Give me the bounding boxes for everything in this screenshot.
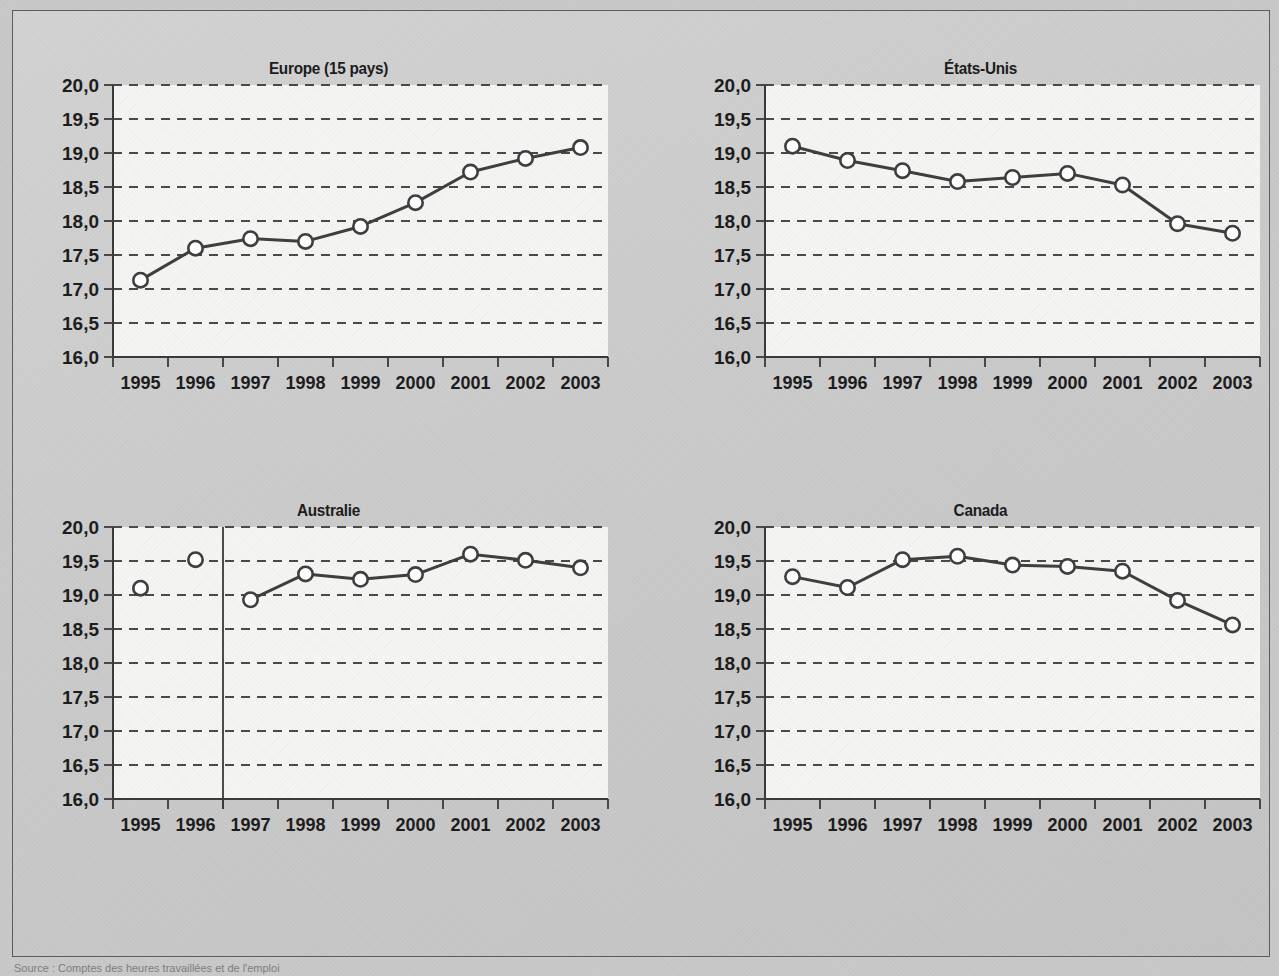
x-tick-label: 1996	[827, 815, 867, 835]
y-tick-label: 17,5	[62, 687, 99, 708]
data-point-marker	[1005, 170, 1019, 184]
y-tick-label: 17,0	[714, 279, 751, 300]
data-point-marker	[298, 234, 312, 248]
x-tick-label: 2000	[395, 815, 435, 835]
chart-plot: 20,019,519,018,518,017,517,016,516,01995…	[41, 501, 616, 861]
y-tick-label: 18,5	[62, 177, 99, 198]
data-point-marker	[518, 553, 532, 567]
y-tick-label: 18,0	[714, 653, 751, 674]
data-point-marker	[1005, 558, 1019, 572]
x-tick-label: 1999	[992, 373, 1032, 393]
x-tick-label: 1997	[882, 373, 922, 393]
x-tick-label: 1996	[827, 373, 867, 393]
y-tick-label: 19,5	[62, 551, 99, 572]
x-tick-label: 2002	[505, 373, 545, 393]
data-point-marker	[1060, 166, 1074, 180]
y-tick-label: 16,0	[62, 347, 99, 368]
figure-page: { "figure": { "source_note": "Source : C…	[0, 0, 1279, 976]
x-tick-label: 1997	[230, 373, 270, 393]
data-point-marker	[133, 581, 147, 595]
data-point-marker	[408, 567, 422, 581]
x-tick-label: 1995	[772, 815, 812, 835]
x-tick-label: 2001	[450, 373, 490, 393]
x-tick-label: 1998	[285, 815, 325, 835]
x-tick-label: 1997	[230, 815, 270, 835]
x-tick-label: 2003	[560, 373, 600, 393]
figure-frame: Europe (15 pays) 20,019,519,018,518,017,…	[12, 10, 1270, 957]
data-point-marker	[463, 547, 477, 561]
y-tick-label: 19,0	[714, 143, 751, 164]
y-tick-label: 18,5	[714, 619, 751, 640]
x-tick-label: 1996	[175, 373, 215, 393]
data-point-marker	[1170, 217, 1184, 231]
x-tick-label: 1998	[285, 373, 325, 393]
x-tick-label: 2000	[1047, 373, 1087, 393]
x-tick-label: 1999	[340, 815, 380, 835]
x-tick-label: 2003	[1212, 815, 1252, 835]
chart-panel-europe: Europe (15 pays) 20,019,519,018,518,017,…	[41, 59, 616, 419]
data-point-marker	[785, 569, 799, 583]
data-point-marker	[1115, 178, 1129, 192]
data-point-marker	[1115, 564, 1129, 578]
y-tick-label: 16,5	[62, 313, 99, 334]
data-point-marker	[353, 219, 367, 233]
y-tick-label: 17,0	[714, 721, 751, 742]
data-point-marker	[840, 153, 854, 167]
data-point-marker	[895, 552, 909, 566]
data-point-marker	[1225, 226, 1239, 240]
y-tick-label: 19,0	[62, 143, 99, 164]
chart-plot: 20,019,519,018,518,017,517,016,516,01995…	[693, 59, 1268, 419]
y-tick-label: 17,5	[714, 245, 751, 266]
x-tick-label: 1995	[772, 373, 812, 393]
data-point-marker	[785, 139, 799, 153]
x-tick-label: 1998	[937, 815, 977, 835]
data-point-marker	[950, 174, 964, 188]
y-tick-label: 16,0	[714, 347, 751, 368]
y-tick-label: 20,0	[62, 75, 99, 96]
x-tick-label: 1995	[120, 815, 160, 835]
x-tick-label: 1996	[175, 815, 215, 835]
data-point-marker	[1060, 559, 1074, 573]
x-tick-label: 1999	[992, 815, 1032, 835]
data-point-marker	[573, 140, 587, 154]
x-tick-label: 1997	[882, 815, 922, 835]
y-tick-label: 19,5	[62, 109, 99, 130]
chart-panel-canada: Canada 20,019,519,018,518,017,517,016,51…	[693, 501, 1268, 861]
x-tick-label: 2001	[450, 815, 490, 835]
y-tick-label: 20,0	[62, 517, 99, 538]
y-tick-label: 17,0	[62, 279, 99, 300]
x-tick-label: 1995	[120, 373, 160, 393]
data-point-marker	[463, 165, 477, 179]
y-tick-label: 16,0	[714, 789, 751, 810]
chart-plot: 20,019,519,018,518,017,517,016,516,01995…	[41, 59, 616, 419]
data-point-marker	[188, 241, 202, 255]
chart-plot: 20,019,519,018,518,017,517,016,516,01995…	[693, 501, 1268, 861]
data-point-marker	[243, 231, 257, 245]
chart-panel-australie: Australie 20,019,519,018,518,017,517,016…	[41, 501, 616, 861]
x-tick-label: 1998	[937, 373, 977, 393]
data-point-marker	[573, 561, 587, 575]
source-note: Source : Comptes des heures travaillées …	[14, 962, 280, 975]
data-point-marker	[188, 552, 202, 566]
y-tick-label: 18,0	[62, 211, 99, 232]
x-tick-label: 2003	[560, 815, 600, 835]
y-tick-label: 18,5	[62, 619, 99, 640]
x-tick-label: 2000	[1047, 815, 1087, 835]
data-point-marker	[895, 163, 909, 177]
y-tick-label: 19,5	[714, 109, 751, 130]
y-tick-label: 16,5	[62, 755, 99, 776]
y-tick-label: 17,0	[62, 721, 99, 742]
y-tick-label: 19,5	[714, 551, 751, 572]
y-tick-label: 20,0	[714, 517, 751, 538]
y-tick-label: 19,0	[62, 585, 99, 606]
y-tick-label: 17,5	[62, 245, 99, 266]
data-point-marker	[1170, 593, 1184, 607]
y-tick-label: 16,5	[714, 755, 751, 776]
data-point-marker	[353, 572, 367, 586]
chart-panel-etats-unis: États-Unis 20,019,519,018,518,017,517,01…	[693, 59, 1268, 419]
y-tick-label: 18,5	[714, 177, 751, 198]
x-tick-label: 2002	[1157, 373, 1197, 393]
y-tick-label: 17,5	[714, 687, 751, 708]
x-tick-label: 2003	[1212, 373, 1252, 393]
data-point-marker	[133, 273, 147, 287]
